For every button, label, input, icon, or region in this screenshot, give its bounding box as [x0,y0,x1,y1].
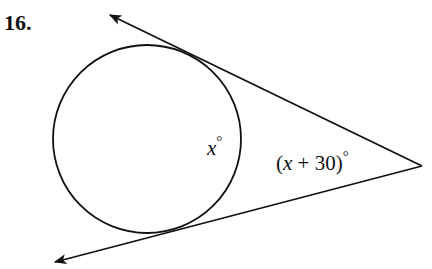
lower-tangent-line [55,166,422,262]
tangent-circle-diagram: x° (x + 30)° [0,0,432,269]
arc-label: x° [206,133,222,160]
angle-label: (x + 30)° [276,148,349,175]
upper-tangent-line [110,15,422,166]
